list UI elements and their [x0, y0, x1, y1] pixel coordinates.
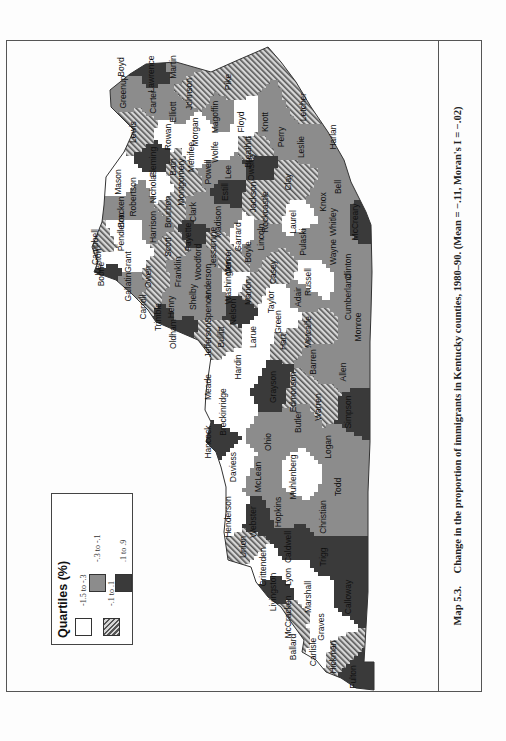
county-label: Bell [333, 180, 343, 194]
county-label: Franklin [173, 257, 183, 288]
county-label: Warren [313, 393, 323, 421]
county-label: Boyle [243, 241, 253, 263]
county-label: Nelson [228, 299, 238, 326]
county-label: Boyd [116, 57, 126, 77]
county-label: Harlan [328, 124, 338, 149]
county-label: Oldham [168, 319, 178, 349]
county-label: Woodford [193, 243, 203, 280]
county-label: Hardin [233, 354, 243, 379]
figure-caption: Map 5.3. Change in the proportion of imm… [452, 40, 463, 692]
legend-title: Quartiles (%) [56, 561, 70, 638]
county-label: Carroll [138, 294, 148, 319]
county-label: Scott [163, 237, 173, 257]
county-label: Knott [260, 111, 270, 131]
county-label: Henry [166, 295, 176, 318]
county-label: Bourbon [163, 196, 173, 228]
county-label: Meade [203, 374, 213, 400]
county-label: McCracken [283, 595, 293, 638]
county-label: Wayne [328, 239, 338, 265]
county-harlan [318, 68, 378, 160]
county-label: Laurel [288, 210, 298, 234]
legend-label: -.3 to -.1 [93, 534, 102, 562]
county-label: Garrard [233, 222, 243, 252]
county-label: Martin [168, 55, 178, 79]
county-label: Trimble [153, 303, 163, 331]
county-label: Pike [223, 73, 233, 90]
county-label: Grayson [268, 371, 278, 403]
county-label: Green [273, 310, 283, 334]
caption-band: Map 5.3. Change in the proportion of imm… [438, 40, 483, 692]
county-label: Letcher [298, 93, 308, 122]
legend-swatch-hatched [103, 618, 120, 636]
county-label: Muhlenberg [288, 454, 298, 499]
county-label: Henderson [223, 496, 233, 538]
county-label: Ohio [263, 433, 273, 451]
figure-number: Map 5.3. [452, 586, 463, 625]
county-label: Simpson [343, 395, 353, 428]
county-label: Jefferson [203, 322, 213, 357]
county-label: Lewis [128, 121, 138, 143]
county-oldham [86, 316, 198, 420]
county-label: Powell [203, 159, 213, 184]
rotated-figure-page: PikeFloydMartinJohnsonLawrenceBoydGreenu… [6, 40, 482, 692]
county-label: Owsley [246, 152, 256, 181]
county-label: Breckinridge [218, 388, 228, 436]
figure-caption-text: Change in the proportion of immigrants i… [452, 107, 463, 574]
county-label: Clark [188, 201, 198, 222]
county-label: Webster [248, 506, 258, 538]
county-label: Union [238, 536, 248, 558]
legend-item-q4: .1 to .9 [114, 540, 132, 592]
county-label: Boone [96, 261, 106, 286]
county-label: Lincoln [256, 223, 266, 250]
county-label: Fulton [348, 665, 358, 689]
county-label: Floyd [236, 111, 246, 132]
county-label: Hancock [203, 425, 213, 459]
county-label: Bullitt [216, 326, 226, 347]
county-label: Greenup [118, 75, 128, 108]
county-label: Casey [268, 259, 278, 284]
county-label: Graves [316, 613, 326, 640]
county-label: Daviess [228, 452, 238, 482]
county-label: Pendleton [116, 213, 126, 252]
county-label: Larue [248, 326, 258, 348]
county-label: Caldwell [283, 531, 293, 563]
county-label: Marion [243, 279, 253, 305]
county-label: Russell [303, 268, 313, 296]
county-label: Marshall [303, 581, 313, 613]
county-label: Menifee [186, 142, 196, 173]
county-label: Montgomery [176, 158, 186, 206]
county-label: Elliott [168, 101, 178, 122]
county-label: Carlisle [308, 638, 318, 667]
county-label: Butler [293, 411, 303, 433]
county-label: Crittenden [258, 547, 268, 586]
county-label: Hart [278, 333, 288, 350]
county-label: Johnson [184, 78, 194, 110]
county-label: Jackson [248, 181, 258, 212]
county-label: Rowan [163, 124, 173, 151]
county-label: Monroe [353, 312, 363, 341]
county-label: Clay [283, 173, 293, 191]
county-label: Estill [220, 183, 230, 201]
county-label: Adair [293, 287, 303, 307]
county-label: Knox [318, 192, 328, 212]
county-label: Barren [308, 349, 318, 375]
county-label: Hopkins [273, 497, 283, 528]
county-label: Pulaski [298, 228, 308, 256]
county-label: Nicholas [148, 171, 158, 204]
county-label: McLean [253, 462, 263, 493]
county-label: Logan [323, 435, 333, 459]
county-label: Lawrence [146, 55, 156, 92]
county-carroll [86, 288, 162, 400]
county-label: Leslie [296, 136, 306, 158]
legend-label: -1.5 to -.3 [79, 574, 88, 606]
county-label: Gallatin [123, 272, 133, 301]
county-label: Jessamine [208, 226, 218, 267]
county-label: Christian [318, 500, 328, 534]
county-label: Hickman [328, 640, 338, 673]
county-label: Cumberland [343, 274, 353, 321]
legend-label: .1 to .9 [119, 540, 128, 562]
county-label: Robertson [128, 177, 138, 216]
county-label: Calloway [343, 579, 353, 614]
county-label: Fayette [183, 223, 193, 252]
county-label: Allen [338, 362, 348, 381]
